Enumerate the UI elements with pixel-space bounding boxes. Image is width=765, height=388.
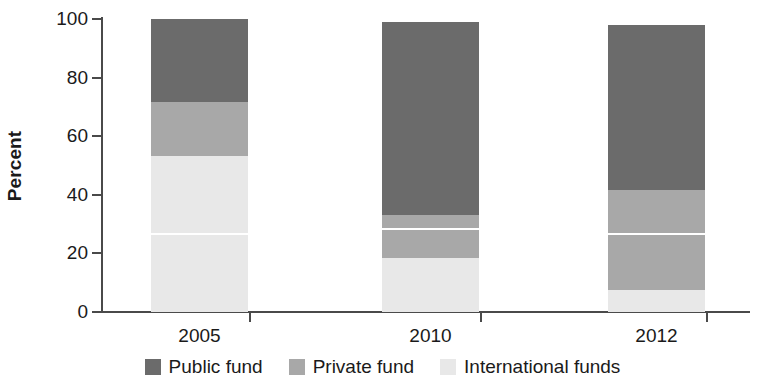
bar-segment-private-fund-2012 [608,190,705,290]
chart-legend: Public fundPrivate fundInternational fun… [0,357,765,376]
y-axis-tick-label: 40 [42,185,88,204]
bar-segment-public-fund-2010 [382,22,479,215]
legend-label: Public fund [169,357,263,376]
bar-segment-private-fund-2005 [151,102,248,156]
legend-item-public-fund[interactable]: Public fund [145,357,263,376]
bar-segment-private-fund-2010 [382,215,479,258]
y-axis-tick [92,135,102,137]
x-axis-tick [480,312,482,322]
legend-swatch-icon [145,359,161,375]
y-axis-tick-label: 80 [42,68,88,87]
y-axis-tick-label: 20 [42,243,88,262]
legend-item-international-funds[interactable]: International funds [440,357,620,376]
bar-segment-international-funds-2010 [382,258,479,312]
y-axis-tick [92,252,102,254]
bar-internal-divider-2005 [151,233,248,235]
x-axis-tick [706,312,708,322]
y-axis-tick [92,77,102,79]
y-axis-tick [92,18,102,20]
x-axis-label-2005: 2005 [140,326,260,345]
y-axis-tick [92,194,102,196]
bar-internal-divider-2012 [608,233,705,235]
legend-label: International funds [464,357,620,376]
plot-area: 020406080100 200520102012 [0,0,765,388]
legend-swatch-icon [289,359,305,375]
legend-swatch-icon [440,359,456,375]
bar-segment-international-funds-2012 [608,290,705,312]
y-axis-tick-label: 0 [42,302,88,321]
legend-item-private-fund[interactable]: Private fund [289,357,414,376]
x-axis-label-2010: 2010 [371,326,491,345]
bar-segment-public-fund-2012 [608,25,705,190]
y-axis-line [101,17,103,313]
x-axis-label-2012: 2012 [597,326,717,345]
y-axis-tick [92,311,102,313]
y-axis-tick-label: 60 [42,126,88,145]
bar-internal-divider-2010 [382,228,479,230]
legend-label: Private fund [313,357,414,376]
x-axis-tick [249,312,251,322]
bar-segment-public-fund-2005 [151,19,248,102]
stacked-bar-chart: Percent 020406080100 200520102012 Public… [0,0,765,388]
y-axis-tick-label: 100 [42,9,88,28]
